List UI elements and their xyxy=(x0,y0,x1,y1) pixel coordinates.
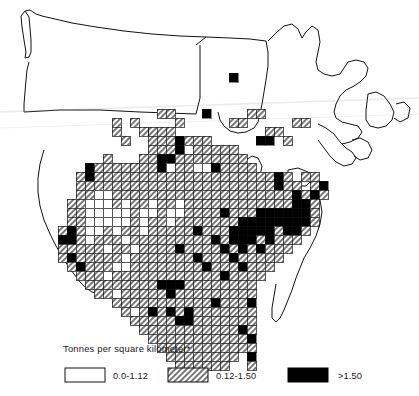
cell-medium xyxy=(274,235,283,244)
cell-medium xyxy=(103,163,112,172)
cell-medium xyxy=(175,289,184,298)
cell-medium xyxy=(85,280,94,289)
legend-title: Tonnes per square kilometer* xyxy=(63,343,191,354)
cell-medium xyxy=(256,181,265,190)
cell-medium xyxy=(103,172,112,181)
cell-medium xyxy=(175,307,184,316)
cell-medium xyxy=(193,217,202,226)
cell-medium xyxy=(220,280,229,289)
cell-medium xyxy=(58,244,67,253)
cell-medium xyxy=(148,244,157,253)
cell-medium xyxy=(202,190,211,199)
cell-medium xyxy=(247,361,256,370)
cell-medium xyxy=(220,298,229,307)
cell-medium xyxy=(184,253,193,262)
cell-medium xyxy=(130,199,139,208)
cell-medium xyxy=(157,298,166,307)
cell-medium xyxy=(202,244,211,253)
cell-medium xyxy=(67,262,76,271)
cell-medium xyxy=(211,208,220,217)
cell-high xyxy=(229,235,238,244)
legend-item-high: >1.50 xyxy=(288,368,362,382)
cell-low xyxy=(121,253,130,262)
cell-high xyxy=(229,226,238,235)
cell-medium xyxy=(166,226,175,235)
cell-high xyxy=(238,217,247,226)
cell-low xyxy=(103,217,112,226)
cell-medium xyxy=(130,289,139,298)
cell-medium xyxy=(283,172,292,181)
cell-medium xyxy=(247,316,256,325)
cell-medium xyxy=(157,334,166,343)
cell-medium xyxy=(202,136,211,145)
cell-high xyxy=(157,280,166,289)
cell-medium xyxy=(130,208,139,217)
cell-medium xyxy=(193,280,202,289)
cell-medium xyxy=(202,271,211,280)
cell-medium xyxy=(76,226,85,235)
cell-medium xyxy=(265,172,274,181)
cell-high xyxy=(175,145,184,154)
cell-medium xyxy=(184,298,193,307)
cell-medium xyxy=(211,262,220,271)
cell-medium xyxy=(193,352,202,361)
cell-medium xyxy=(112,244,121,253)
cell-high xyxy=(229,73,238,82)
cell-medium xyxy=(67,244,76,253)
cell-medium xyxy=(247,163,256,172)
cell-low xyxy=(130,307,139,316)
cell-medium xyxy=(211,271,220,280)
cell-medium xyxy=(157,127,166,136)
cell-medium xyxy=(193,208,202,217)
cell-medium xyxy=(211,361,220,370)
cell-low xyxy=(94,208,103,217)
emissions-choropleth-map: Tonnes per square kilometer* 0.0-1.12 0.… xyxy=(0,0,419,396)
cell-medium xyxy=(229,316,238,325)
cell-medium xyxy=(229,118,238,127)
cell-medium xyxy=(94,253,103,262)
cell-high xyxy=(202,109,211,118)
cell-low xyxy=(94,190,103,199)
cell-low xyxy=(103,271,112,280)
cell-medium xyxy=(193,199,202,208)
cell-medium xyxy=(229,343,238,352)
cell-medium xyxy=(67,208,76,217)
cell-medium xyxy=(184,244,193,253)
cell-medium xyxy=(166,262,175,271)
cell-medium xyxy=(238,334,247,343)
cell-high xyxy=(157,154,166,163)
cell-medium xyxy=(121,271,130,280)
cell-medium xyxy=(112,253,121,262)
cell-high xyxy=(148,307,157,316)
cell-medium xyxy=(148,316,157,325)
cell-high xyxy=(220,244,229,253)
cell-high xyxy=(58,235,67,244)
cell-high xyxy=(283,226,292,235)
cell-medium xyxy=(184,163,193,172)
legend-label-high: >1.50 xyxy=(338,371,362,381)
cell-medium xyxy=(274,253,283,262)
cell-medium xyxy=(229,217,238,226)
cell-medium xyxy=(211,343,220,352)
cell-high xyxy=(193,226,202,235)
cell-low xyxy=(85,226,94,235)
cell-medium xyxy=(238,199,247,208)
cell-medium xyxy=(193,325,202,334)
cell-medium xyxy=(265,127,274,136)
cell-medium xyxy=(310,199,319,208)
cell-high xyxy=(85,172,94,181)
cell-medium xyxy=(193,181,202,190)
cell-medium xyxy=(103,154,112,163)
cell-low xyxy=(121,217,130,226)
cell-high xyxy=(247,235,256,244)
cell-medium xyxy=(112,118,121,127)
cell-medium xyxy=(202,226,211,235)
cell-high xyxy=(247,217,256,226)
cell-low xyxy=(121,199,130,208)
cell-medium xyxy=(175,190,184,199)
cell-medium xyxy=(76,271,85,280)
cell-medium xyxy=(139,127,148,136)
cell-medium xyxy=(130,298,139,307)
cell-medium xyxy=(175,163,184,172)
cell-medium xyxy=(256,262,265,271)
